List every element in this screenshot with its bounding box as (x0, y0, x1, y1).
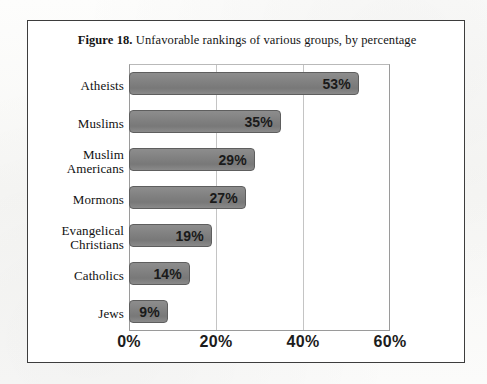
bar-row: Jews 9% (28, 296, 466, 334)
bar-evangelical-christians: 19% (129, 224, 212, 247)
x-axis: 0% 20% 40% 60% (28, 333, 466, 359)
bar-value-label: 9% (139, 305, 167, 319)
scanned-page-background: Figure 18. Unfavorable rankings of vario… (0, 0, 487, 384)
category-label: Jews (28, 307, 124, 321)
bar-chart: Atheists 53% Muslims 35% Muslim Am (28, 21, 466, 364)
bar-catholics: 14% (129, 262, 190, 285)
bar-row: Atheists 53% (28, 68, 466, 106)
bar-value-label: 53% (322, 77, 358, 91)
bar-jews: 9% (129, 300, 168, 323)
x-tick-60: 60% (358, 333, 422, 351)
bar-value-label: 14% (153, 267, 189, 281)
bar-value-label: 19% (175, 229, 211, 243)
bar-muslims: 35% (129, 110, 281, 133)
bar-row: Muslims 35% (28, 106, 466, 144)
bar-muslim-americans: 29% (129, 148, 255, 171)
category-label-line: Muslims (28, 117, 124, 131)
bar-row: Catholics 14% (28, 258, 466, 296)
x-tick-40: 40% (271, 333, 335, 351)
bar-row: Mormons 27% (28, 182, 466, 220)
bar-value-label: 29% (218, 153, 254, 167)
category-label-line: Christians (28, 238, 124, 252)
category-label-line: Atheists (28, 79, 124, 93)
bar-value-label: 35% (244, 115, 280, 129)
category-label: Catholics (28, 269, 124, 283)
x-tick-20: 20% (184, 333, 248, 351)
category-label: Muslims (28, 117, 124, 131)
category-label-line: Jews (28, 307, 124, 321)
category-label-line: Muslim (28, 148, 124, 162)
category-label-line: Mormons (28, 193, 124, 207)
figure-frame: Figure 18. Unfavorable rankings of vario… (27, 20, 465, 363)
category-label-line: Evangelical (28, 224, 124, 238)
bar-atheists: 53% (129, 72, 359, 95)
category-label-line: Americans (28, 162, 124, 176)
bar-value-label: 27% (209, 191, 245, 205)
category-label: Atheists (28, 79, 124, 93)
bar-mormons: 27% (129, 186, 246, 209)
category-label: Mormons (28, 193, 124, 207)
category-label: Evangelical Christians (28, 224, 124, 252)
bar-row: Muslim Americans 29% (28, 144, 466, 182)
category-label-line: Catholics (28, 269, 124, 283)
x-tick-0: 0% (97, 333, 161, 351)
bar-row: Evangelical Christians 19% (28, 220, 466, 258)
category-label: Muslim Americans (28, 148, 124, 176)
